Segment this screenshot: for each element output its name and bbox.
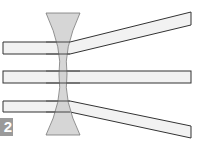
figure-number-label: 2 bbox=[0, 118, 13, 136]
beam-top bbox=[3, 12, 191, 54]
beam-middle bbox=[3, 71, 191, 83]
diagram-canvas: 2 bbox=[0, 0, 201, 144]
lens-diagram bbox=[0, 0, 201, 144]
beam-bottom bbox=[3, 101, 191, 138]
